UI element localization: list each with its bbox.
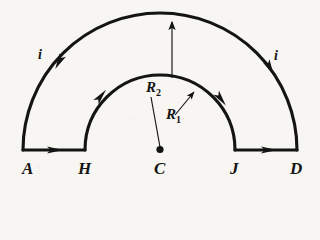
label-point-j: J: [230, 160, 239, 177]
label-radius-r1: R1: [166, 107, 181, 125]
label-radius-r2: R2: [146, 80, 161, 98]
leader-line-r2: [151, 97, 160, 147]
label-radius-r2-base: R: [146, 79, 156, 95]
label-current-right: i: [274, 49, 278, 63]
label-point-d: D: [290, 160, 302, 177]
label-current-left: i: [38, 48, 42, 62]
label-point-a: A: [22, 160, 33, 177]
label-radius-r2-sub: 2: [156, 87, 161, 98]
label-point-c: C: [154, 160, 165, 177]
label-point-h: H: [78, 160, 91, 177]
label-radius-r1-sub: 1: [176, 114, 181, 125]
center-point-c: [156, 146, 163, 153]
label-radius-r1-base: R: [166, 106, 176, 122]
